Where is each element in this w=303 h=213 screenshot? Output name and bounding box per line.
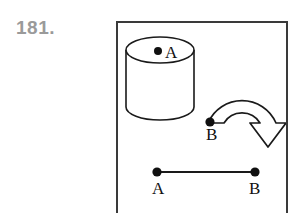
rotation-arrow — [208, 101, 286, 147]
figure-frame: A B A B — [116, 21, 288, 213]
segment-shape — [152, 167, 259, 176]
figure-drawing — [118, 23, 286, 213]
segment-endpoint-b-dot — [250, 167, 259, 176]
point-a-dot-cylinder — [154, 47, 162, 55]
label-b-segment: B — [249, 180, 260, 197]
rotation-arrow-outline — [208, 101, 286, 147]
page-root: 181. A — [0, 0, 303, 213]
label-a-cylinder: A — [165, 44, 177, 61]
label-a-segment: A — [152, 180, 164, 197]
problem-number: 181. — [16, 18, 55, 37]
segment-endpoint-a-dot — [152, 167, 161, 176]
label-b-arrow: B — [206, 126, 217, 143]
